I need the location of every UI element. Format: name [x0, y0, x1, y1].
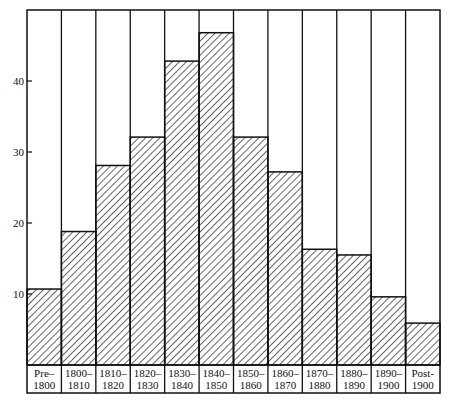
category-label: 1810: [68, 379, 91, 391]
category-label: Pre–: [34, 367, 55, 379]
category-label: 1900: [377, 379, 400, 391]
bar: [234, 137, 268, 365]
category-label: 1870: [274, 379, 297, 391]
y-tick-label: 30: [13, 146, 25, 158]
bar: [130, 137, 164, 365]
category-label: 1860–: [271, 367, 299, 379]
category-label: 1890–: [375, 367, 403, 379]
category-label: 1900: [412, 379, 435, 391]
bar: [302, 249, 336, 365]
category-label: 1870–: [306, 367, 334, 379]
category-label: 1880–: [340, 367, 368, 379]
bar: [371, 297, 405, 365]
bar: [268, 172, 302, 365]
category-label: 1850: [205, 379, 228, 391]
category-label: 1820: [102, 379, 125, 391]
bar: [165, 61, 199, 365]
category-label: 1840: [171, 379, 194, 391]
category-label: 1800: [33, 379, 56, 391]
category-label: 1850–: [237, 367, 265, 379]
category-label: 1830–: [168, 367, 196, 379]
bar: [199, 33, 233, 365]
bar: [61, 232, 95, 365]
y-tick-label: 40: [13, 75, 25, 87]
category-label: 1840–: [203, 367, 231, 379]
category-label: 1820–: [134, 367, 162, 379]
histogram-chart: 10203040 Pre–18001800–18101810–18201820–…: [0, 0, 449, 411]
category-label: Post-: [411, 367, 434, 379]
category-label: 1800–: [65, 367, 93, 379]
category-label: 1830: [136, 379, 159, 391]
y-axis: 10203040: [13, 75, 32, 300]
y-tick-label: 10: [13, 288, 25, 300]
category-label: 1880: [309, 379, 332, 391]
bar: [27, 289, 61, 365]
category-label: 1810–: [99, 367, 127, 379]
category-label: 1890: [343, 379, 366, 391]
bar: [96, 165, 130, 365]
y-tick-label: 20: [13, 217, 25, 229]
bar: [337, 255, 371, 365]
category-label: 1860: [240, 379, 263, 391]
bar: [406, 323, 440, 365]
